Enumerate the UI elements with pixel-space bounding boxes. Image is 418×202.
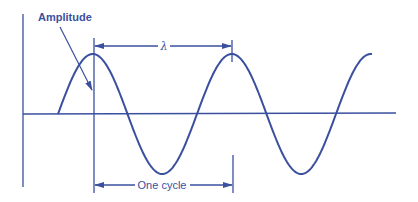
amplitude-label: Amplitude xyxy=(38,11,92,23)
x-axis xyxy=(23,113,396,114)
wavelength-label: λ xyxy=(160,40,168,53)
one-cycle-label: One cycle xyxy=(138,179,187,191)
sine-wave-diagram: λ One cycle Amplitude xyxy=(0,0,418,202)
amplitude-pointer-arrow xyxy=(60,27,92,90)
